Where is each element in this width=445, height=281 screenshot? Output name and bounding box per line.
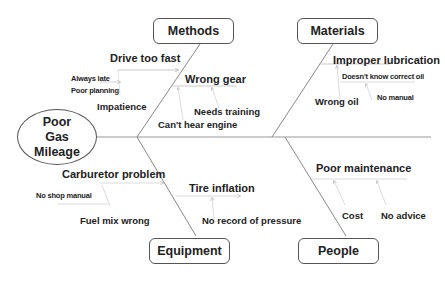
subcause-poor-planning: Poor planning	[71, 86, 119, 95]
cause-tire-inflation: Tire inflation	[189, 182, 255, 194]
category-materials-label: Materials	[310, 24, 364, 38]
subcause-no-advice: No advice	[381, 210, 426, 221]
cause-drive-too-fast: Drive too fast	[110, 52, 180, 64]
cause-poor-maintenance: Poor maintenance	[316, 162, 411, 174]
subcause-no-manual: No manual	[377, 93, 414, 102]
category-methods: Methods	[153, 18, 234, 44]
subcause-no-record-of-pressure: No record of pressure	[202, 215, 301, 226]
subcause-cant-hear-engine: Can't hear engine	[158, 119, 237, 130]
subcause-no-shop-manual: No shop manual	[36, 191, 92, 200]
category-people: People	[298, 238, 379, 264]
subcause-cost: Cost	[342, 210, 363, 221]
subcause-always-late: Always late	[71, 74, 110, 83]
cause-improper-lubrication: Improper lubrication	[333, 54, 440, 66]
category-equipment: Equipment	[149, 238, 230, 264]
category-people-label: People	[318, 244, 359, 258]
subcause-impatience: Impatience	[97, 101, 147, 112]
subcause-needs-training: Needs training	[194, 106, 260, 117]
category-materials: Materials	[297, 18, 378, 44]
effect-head: Poor Gas Mileage	[17, 109, 97, 165]
category-equipment-label: Equipment	[157, 244, 222, 258]
subcause-doesnt-know-correct-oil: Doesn't know correct oil	[342, 72, 424, 81]
cause-carburetor-problem: Carburetor problem	[62, 168, 165, 180]
subcause-wrong-oil: Wrong oil	[315, 96, 359, 107]
effect-line-2: Gas	[45, 130, 69, 145]
category-methods-label: Methods	[168, 24, 219, 38]
effect-line-3: Mileage	[34, 145, 80, 160]
subcause-fuel-mix-wrong: Fuel mix wrong	[80, 215, 150, 226]
effect-line-1: Poor	[43, 115, 71, 130]
cause-wrong-gear: Wrong gear	[185, 73, 246, 85]
